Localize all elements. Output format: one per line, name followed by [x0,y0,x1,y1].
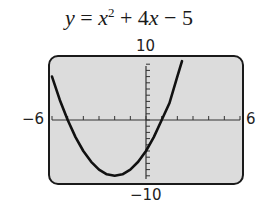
graph-screen [0,0,258,212]
